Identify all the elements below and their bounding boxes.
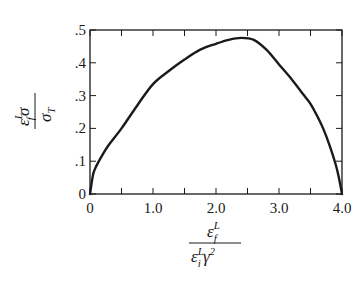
x-tick-label: 0 [86, 200, 94, 216]
y-tick-label: .1 [75, 153, 86, 169]
y-label-numerator: εLfσ [12, 107, 36, 126]
y-tick-label: 0 [79, 186, 87, 202]
x-label-numerator: εLf [207, 219, 220, 244]
x-label-denominator: εLiγ2 [191, 245, 216, 269]
axes-box [90, 30, 342, 194]
y-tick-label: .2 [75, 120, 86, 136]
plot-frame [90, 30, 342, 194]
x-tick-label: 4.0 [333, 200, 352, 216]
y-axis-label: εLfσ σT [12, 93, 57, 129]
x-tick-label: 1.0 [144, 200, 163, 216]
y-tick-label: .4 [75, 55, 87, 71]
x-axis-label: εLf εLiγ2 [189, 219, 241, 269]
data-curve [90, 38, 342, 194]
tick-labels: 01.02.03.04.00.1.2.3.4.5 [75, 22, 352, 216]
x-tick-label: 3.0 [270, 200, 289, 216]
x-tick-label: 2.0 [207, 200, 226, 216]
y-label-denominator: σT [36, 107, 57, 122]
y-tick-label: .3 [75, 88, 86, 104]
y-tick-label: .5 [75, 22, 86, 38]
chart: 01.02.03.04.00.1.2.3.4.5 εLfσ σT εLf εLi… [0, 0, 359, 281]
ticks [90, 30, 342, 194]
